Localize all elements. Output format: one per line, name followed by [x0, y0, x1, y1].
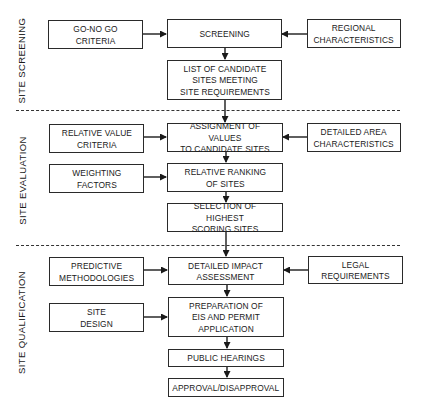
- preparation-eis-box: PREPARATION OF EIS AND PERMIT APPLICATIO…: [168, 297, 284, 337]
- box-label: LIST OF CANDIDATE SITES MEETING SITE REQ…: [180, 63, 270, 98]
- site-design-box: SITE DESIGN: [49, 303, 144, 332]
- go-no-go-criteria-box: GO-NO GO CRITERIA: [48, 20, 143, 49]
- relative-value-criteria-box: RELATIVE VALUE CRITERIA: [49, 124, 144, 153]
- box-label: RELATIVE RANKING OF SITES: [184, 166, 266, 189]
- box-label: LEGAL REQUIREMENTS: [315, 259, 397, 282]
- selection-highest-scoring-box: SELECTION OF HIGHEST SCORING SITES: [167, 203, 283, 232]
- box-label: WEIGHTING FACTORS: [72, 167, 121, 190]
- list-of-candidate-sites-box: LIST OF CANDIDATE SITES MEETING SITE REQ…: [167, 60, 282, 100]
- detailed-area-characteristics-box: DETAILED AREA CHARACTERISTICS: [307, 123, 401, 152]
- box-label: DETAILED AREA CHARACTERISTICS: [314, 126, 394, 149]
- box-label: PREDICTIVE METHODOLOGIES: [59, 260, 134, 283]
- assignment-of-values-box: ASSIGNMENT OF VALUES TO CANDIDATE SITES: [167, 123, 283, 152]
- detailed-impact-assessment-box: DETAILED IMPACT ASSESSMENT: [168, 257, 284, 285]
- box-label: PREPARATION OF EIS AND PERMIT APPLICATIO…: [189, 300, 263, 335]
- box-label: APPROVAL/DISAPPROVAL: [173, 382, 280, 394]
- regional-characteristics-box: REGIONAL CHARACTERISTICS: [307, 19, 401, 48]
- box-label: PUBLIC HEARINGS: [187, 352, 265, 364]
- box-label: REGIONAL CHARACTERISTICS: [314, 22, 394, 45]
- predictive-methodologies-box: PREDICTIVE METHODOLOGIES: [49, 257, 144, 286]
- box-label: SCREENING: [199, 28, 250, 40]
- relative-ranking-box: RELATIVE RANKING OF SITES: [167, 163, 283, 192]
- box-label: DETAILED IMPACT ASSESSMENT: [189, 260, 264, 283]
- legal-requirements-box: LEGAL REQUIREMENTS: [308, 256, 403, 284]
- box-label: SITE DESIGN: [80, 306, 113, 329]
- box-label: RELATIVE VALUE CRITERIA: [61, 127, 131, 150]
- weighting-factors-box: WEIGHTING FACTORS: [49, 164, 144, 193]
- box-label: ASSIGNMENT OF VALUES TO CANDIDATE SITES: [175, 120, 275, 155]
- screening-box: SCREENING: [167, 19, 282, 48]
- public-hearings-box: PUBLIC HEARINGS: [168, 349, 284, 367]
- box-label: GO-NO GO CRITERIA: [55, 23, 137, 46]
- approval-disapproval-box: APPROVAL/DISAPPROVAL: [168, 378, 284, 397]
- box-label: SELECTION OF HIGHEST SCORING SITES: [175, 200, 275, 235]
